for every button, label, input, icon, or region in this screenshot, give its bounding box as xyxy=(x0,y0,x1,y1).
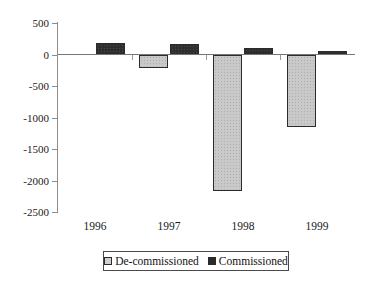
plot-area xyxy=(58,23,354,212)
legend-label-commissioned: Commissioned xyxy=(219,255,288,267)
bar-commissioned-1996 xyxy=(96,43,125,54)
x-axis-label-1996: 1996 xyxy=(58,220,132,232)
legend-item-de-commissioned[interactable]: De-commissioned xyxy=(104,255,199,267)
x-axis-label-1997: 1997 xyxy=(132,220,206,232)
legend-swatch-de-commissioned-icon xyxy=(104,257,112,265)
y-axis-tick-label: 500 xyxy=(0,18,49,29)
legend-item-commissioned[interactable]: Commissioned xyxy=(208,255,288,267)
y-axis-tick-label: -500 xyxy=(0,81,49,92)
x-axis-label-1998: 1998 xyxy=(206,220,280,232)
chart-legend: De-commissioned Commissioned xyxy=(103,251,289,271)
bar-de-commissioned-1997 xyxy=(139,55,168,68)
bar-commissioned-1999 xyxy=(318,51,347,55)
bar-chart: 5000-500-1000-1500-2000-2500 19961997199… xyxy=(0,0,378,295)
legend-label-de-commissioned: De-commissioned xyxy=(115,255,199,267)
y-axis-tick xyxy=(52,212,58,213)
bar-de-commissioned-1998 xyxy=(213,55,242,191)
y-axis-tick-label: -2000 xyxy=(0,176,49,187)
y-axis-tick-label: -1000 xyxy=(0,113,49,124)
x-axis-label-1999: 1999 xyxy=(280,220,354,232)
bar-de-commissioned-1999 xyxy=(287,55,316,127)
y-axis-tick-label: -1500 xyxy=(0,144,49,155)
bar-commissioned-1998 xyxy=(244,48,273,55)
bar-commissioned-1997 xyxy=(170,44,199,54)
legend-swatch-commissioned-icon xyxy=(208,257,216,265)
y-axis-tick-label: 0 xyxy=(0,50,49,61)
y-axis-tick-label: -2500 xyxy=(0,207,49,218)
